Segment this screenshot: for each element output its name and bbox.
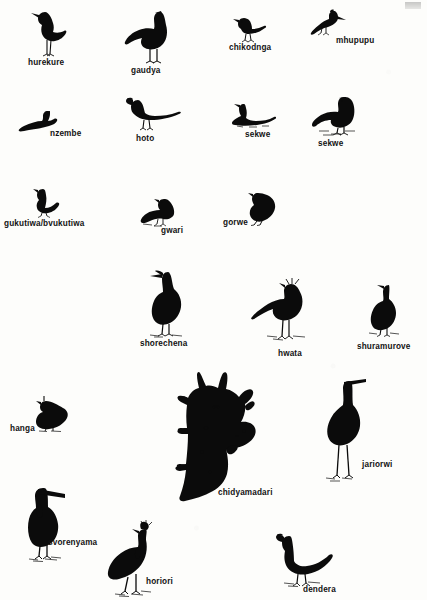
figure-shuramurove (365, 283, 403, 337)
figure-gwari (140, 198, 176, 228)
label-mhupupu: mhupupu (336, 37, 374, 45)
figure-hoto (126, 96, 184, 136)
figure-mhupupu (310, 10, 348, 38)
label-gorwe: gorwe (223, 219, 248, 227)
figure-shorechena (148, 270, 196, 338)
label-gwari: gwari (161, 227, 183, 235)
figure-dendera (276, 533, 334, 589)
label-chikodnga: chikodnga (229, 44, 271, 52)
figure-gaudya (124, 10, 178, 64)
label-hanga: hanga (10, 425, 35, 433)
label-hwata: hwata (278, 350, 302, 358)
label-gukutiwa-bvukutiwa: gukutiwa/bvukutiwa (4, 220, 85, 228)
scan-corner-mark (405, 2, 421, 9)
label-horiori: horiori (146, 578, 173, 586)
label-sekwe-standing: sekwe (318, 140, 343, 148)
figure-chikodnga (232, 16, 270, 44)
bird-silhouette-chart-page: hurekure gaudya chikodnga (0, 0, 427, 600)
label-svorenyama: svorenyama (48, 539, 97, 547)
label-shuramurove: shuramurove (357, 343, 411, 351)
figure-gukutiwa-bvukutiwa (29, 188, 61, 218)
figure-chidyamadari (166, 372, 266, 504)
label-dendera: dendera (303, 586, 336, 594)
figure-gorwe (244, 192, 278, 226)
label-jariorwi: jariorwi (362, 461, 392, 469)
figure-sekwe-standing (311, 96, 359, 138)
label-sekwe-swimming: sekwe (245, 131, 270, 139)
label-nzembe: nzembe (50, 130, 81, 138)
label-chidyamadari: chidyamadari (218, 489, 273, 497)
figure-hwata (251, 278, 317, 346)
label-gaudya: gaudya (131, 67, 161, 75)
figure-svorenyama (25, 486, 75, 562)
figure-hanga (33, 396, 73, 432)
label-hoto: hoto (136, 135, 154, 143)
label-shorechena: shorechena (140, 340, 187, 348)
label-hurekure: hurekure (28, 59, 64, 67)
figure-hurekure (30, 8, 74, 58)
figure-sekwe-swimming (231, 102, 277, 130)
